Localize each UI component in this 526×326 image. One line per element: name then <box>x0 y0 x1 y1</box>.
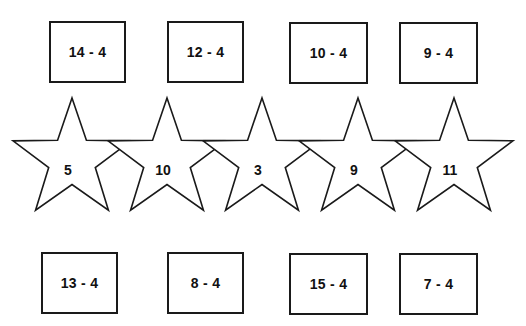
star-value-3: 3 <box>254 163 262 177</box>
star-shape-5[interactable] <box>395 98 513 210</box>
expression-card-bottom-3-label: 15 - 4 <box>310 277 348 291</box>
expression-card-top-3[interactable]: 10 - 4 <box>289 22 368 84</box>
expression-card-bottom-1-label: 13 - 4 <box>61 276 99 290</box>
worksheet-canvas: 14 - 412 - 410 - 49 - 4 5103911 13 - 48 … <box>0 0 526 326</box>
star-value-4: 9 <box>350 163 358 177</box>
star-value-2: 10 <box>155 163 171 177</box>
expression-card-top-1-label: 14 - 4 <box>69 45 107 59</box>
star-value-5: 11 <box>443 163 458 177</box>
star-row: 5103911 <box>0 90 526 225</box>
expression-card-bottom-1[interactable]: 13 - 4 <box>41 252 118 314</box>
expression-card-top-2-label: 12 - 4 <box>187 45 225 59</box>
expression-card-bottom-3[interactable]: 15 - 4 <box>289 253 368 315</box>
star-shape-2[interactable] <box>108 98 226 210</box>
star-value-1: 5 <box>64 163 72 177</box>
expression-card-bottom-2[interactable]: 8 - 4 <box>167 252 244 314</box>
star-shape-4[interactable] <box>299 98 417 210</box>
expression-card-top-1[interactable]: 14 - 4 <box>49 21 126 83</box>
expression-card-top-4-label: 9 - 4 <box>424 46 454 60</box>
star-shape-1[interactable] <box>13 98 131 210</box>
star-row-graphic <box>0 90 526 225</box>
expression-card-bottom-4-label: 7 - 4 <box>424 277 454 291</box>
star-shape-3[interactable] <box>203 98 321 210</box>
expression-card-top-2[interactable]: 12 - 4 <box>167 21 244 83</box>
expression-card-top-4[interactable]: 9 - 4 <box>399 22 478 84</box>
expression-card-top-3-label: 10 - 4 <box>310 46 348 60</box>
expression-card-bottom-4[interactable]: 7 - 4 <box>399 253 478 315</box>
expression-card-bottom-2-label: 8 - 4 <box>191 276 221 290</box>
